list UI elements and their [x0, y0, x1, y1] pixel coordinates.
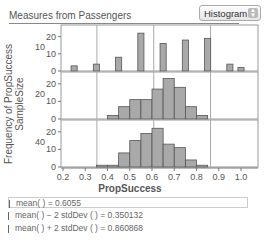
histogram-bar [174, 148, 185, 167]
histogram-bar [163, 79, 174, 119]
histogram-bar [205, 38, 211, 71]
histogram-bar [141, 134, 152, 167]
svg-text:20: 20 [46, 79, 56, 89]
svg-text:0.2: 0.2 [57, 172, 70, 182]
histogram-bar [152, 128, 163, 167]
stat-mean-minus-2sd[interactable]: mean( ) − 2 stdDev ( ) = 0.350132 [8, 210, 143, 221]
histogram-bar [116, 57, 122, 71]
svg-text:10: 10 [46, 144, 56, 154]
svg-text:0: 0 [51, 114, 56, 124]
stat-text: mean( ) = 0.6055 [16, 198, 81, 208]
histogram-bar [185, 160, 196, 167]
histogram-bar [182, 40, 188, 71]
histogram-bar [93, 64, 99, 71]
svg-text:1.0: 1.0 [235, 172, 248, 182]
line-marker-icon [8, 212, 9, 220]
svg-text:0.6: 0.6 [146, 172, 159, 182]
svg-text:0.3: 0.3 [79, 172, 92, 182]
stat-text: mean( ) − 2 stdDev ( ) = 0.350132 [15, 210, 143, 220]
histogram-bar [130, 100, 141, 119]
histogram-panel: 0102020 [35, 72, 258, 124]
histogram-bar [185, 107, 196, 119]
histogram-bar [96, 165, 107, 167]
svg-text:0.7: 0.7 [168, 172, 181, 182]
histogram-bar [160, 43, 166, 71]
histogram-bar [130, 141, 141, 167]
histogram-bar [108, 115, 119, 119]
stat-text: mean( ) + 2 stdDev ( ) = 0.860868 [15, 223, 143, 233]
line-marker-icon [9, 200, 10, 208]
histogram-bar [141, 100, 152, 119]
histogram-bar [138, 33, 144, 71]
sample-size-label: 10 [35, 42, 45, 52]
sample-size-label: 40 [35, 137, 45, 147]
svg-text:20: 20 [46, 32, 56, 42]
histogram-bar [197, 165, 208, 167]
histogram-bar [71, 66, 77, 71]
histogram-bar [174, 87, 185, 119]
histogram-bar [119, 153, 130, 167]
svg-text:20: 20 [46, 127, 56, 137]
svg-text:10: 10 [46, 49, 56, 59]
histogram-bar [197, 115, 208, 119]
svg-text:0.8: 0.8 [190, 172, 203, 182]
svg-text:0.9: 0.9 [212, 172, 225, 182]
histogram-panel: 0102010 [35, 25, 258, 76]
histogram-bar [152, 89, 163, 119]
sample-size-label: 20 [35, 89, 45, 99]
histogram-bar [227, 64, 233, 71]
svg-text:0.5: 0.5 [123, 172, 136, 182]
stat-mean[interactable]: mean( ) = 0.6055 [8, 197, 248, 208]
histogram-bar [238, 68, 244, 71]
histogram-bar [108, 165, 119, 167]
svg-text:0.4: 0.4 [101, 172, 114, 182]
histogram-panel: 0102040 [35, 120, 258, 172]
stat-mean-plus-2sd[interactable]: mean( ) + 2 stdDev ( ) = 0.860868 [8, 223, 143, 234]
svg-text:0: 0 [51, 162, 56, 172]
x-axis-label: PropSuccess [98, 183, 161, 194]
svg-text:0: 0 [51, 66, 56, 76]
histogram-bar [119, 107, 130, 119]
line-marker-icon [8, 225, 9, 233]
svg-text:10: 10 [46, 96, 56, 106]
histogram-bar [163, 144, 174, 167]
